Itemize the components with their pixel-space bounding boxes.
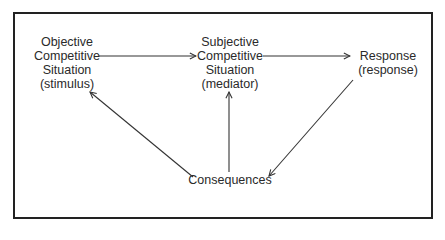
node-label-line: Situation <box>197 63 263 77</box>
node-subjective-competitive-situation: Subjective Competitive Situation (mediat… <box>197 35 263 91</box>
node-objective-competitive-situation: Objective Competitive Situation (stimulu… <box>34 35 100 91</box>
node-label-line: (mediator) <box>197 77 263 91</box>
node-response: Response (response) <box>358 49 418 77</box>
node-label-line: (stimulus) <box>34 77 100 91</box>
node-label-line: (response) <box>358 63 418 77</box>
node-label-line: Objective <box>34 35 100 49</box>
node-consequences: Consequences <box>188 173 271 187</box>
node-label-line: Situation <box>34 63 100 77</box>
node-label-line: Consequences <box>188 173 271 187</box>
node-label-line: Competitive <box>197 49 263 63</box>
node-label-line: Competitive <box>34 49 100 63</box>
node-label-line: Response <box>358 49 418 63</box>
node-label-line: Subjective <box>197 35 263 49</box>
